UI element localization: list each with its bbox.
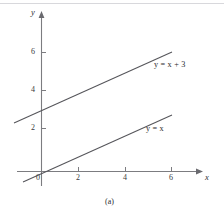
x-tick-label-6: 6: [169, 174, 173, 182]
figure-container: y x 0 6 4 2 2 4 6 y = x + 3 y = x (a): [0, 0, 224, 218]
origin-label: 0: [36, 174, 40, 182]
y-tick-label-6: 6: [31, 48, 35, 56]
figure-caption: (a): [105, 198, 114, 206]
x-tick-label-2: 2: [76, 174, 80, 182]
x-axis-label: x: [205, 173, 209, 182]
y-tick-label-4: 4: [31, 86, 35, 94]
y-axis-label: y: [31, 8, 35, 17]
plot-canvas: [0, 0, 224, 218]
annotation-lower-line: y = x: [146, 125, 164, 133]
y-axis-arrow-icon: [39, 11, 45, 18]
y-tick-label-2: 2: [31, 124, 35, 132]
x-axis-arrow-icon: [196, 169, 203, 175]
annotation-upper-line: y = x + 3: [154, 61, 186, 69]
line-y-equals-x-plus-3: [14, 52, 172, 123]
x-tick-label-4: 4: [123, 174, 127, 182]
